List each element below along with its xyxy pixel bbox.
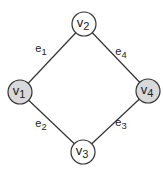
edge-label-e1: e1: [35, 42, 46, 57]
edge-e4: [84, 24, 148, 91]
edge-e2: [20, 92, 83, 152]
edge-label-e3: e3: [115, 116, 126, 131]
nodes: v1v2v3v4: [8, 12, 160, 164]
graph-diagram: e1e2e3e4 v1v2v3v4: [0, 0, 163, 172]
edge-label-e2: e2: [35, 117, 46, 132]
edge-e1: [20, 24, 84, 92]
edges: e1e2e3e4: [20, 24, 148, 152]
